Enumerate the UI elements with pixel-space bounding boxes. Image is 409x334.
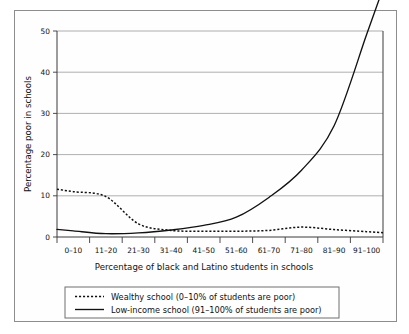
x-tick-label-4: 41–50 bbox=[192, 246, 215, 255]
x-tick-label-8: 81–90 bbox=[323, 246, 346, 255]
line-chart: 50 40 30 20 10 0 0–10 11–20 21–30 31– bbox=[0, 0, 409, 334]
series-group bbox=[57, 0, 383, 234]
x-tick-label-1: 11–20 bbox=[95, 246, 118, 255]
x-tick-label-0: 0–10 bbox=[64, 246, 82, 255]
x-tick-label-6: 61–70 bbox=[258, 246, 281, 255]
y-axis-title: Percentage poor in schools bbox=[23, 76, 33, 192]
y-tick-label-0: 0 bbox=[45, 233, 50, 242]
y-tick-label-30: 30 bbox=[41, 109, 51, 118]
legend-entry-low-income[interactable]: Low-income school (91–100% of students a… bbox=[75, 305, 322, 315]
y-axis-ticks: 50 40 30 20 10 0 bbox=[41, 27, 57, 242]
x-tick-label-5: 51–60 bbox=[225, 246, 248, 255]
figure-container: 50 40 30 20 10 0 0–10 11–20 21–30 31– bbox=[0, 0, 409, 334]
x-axis-labels: 0–10 11–20 21–30 31–40 41–50 51–60 61–70… bbox=[64, 246, 380, 255]
y-tick-label-40: 40 bbox=[41, 68, 51, 77]
x-tick-label-9: 91–100 bbox=[353, 246, 381, 255]
x-tick-label-7: 71–80 bbox=[290, 246, 313, 255]
x-tick-label-3: 31–40 bbox=[160, 246, 183, 255]
legend-label-low-income: Low-income school (91–100% of students a… bbox=[111, 305, 322, 315]
x-axis-ticks bbox=[57, 237, 383, 243]
axis-lines bbox=[57, 31, 383, 237]
y-tick-label-10: 10 bbox=[41, 191, 51, 200]
legend-label-wealthy: Wealthy school (0–10% of students are po… bbox=[111, 292, 295, 302]
y-tick-label-50: 50 bbox=[41, 27, 51, 36]
legend: Wealthy school (0–10% of students are po… bbox=[65, 287, 339, 318]
gridlines bbox=[57, 31, 383, 196]
x-tick-label-2: 21–30 bbox=[127, 246, 150, 255]
x-axis-title: Percentage of black and Latino students … bbox=[95, 262, 314, 272]
series-line-low-income bbox=[57, 0, 383, 234]
y-tick-label-20: 20 bbox=[41, 150, 51, 159]
